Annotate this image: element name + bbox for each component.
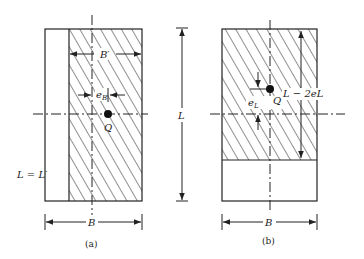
load-point-label-b: Q [273,95,281,106]
l-label: L [177,110,185,121]
panel-a: Q B′ eB L = L′ B (a) [16,15,148,249]
caption-a: (a) [85,239,97,249]
l-minus-2el-label: L − 2eL [282,88,324,99]
b-label-a: B [87,217,95,228]
l-equals-l-prime-label: L = L′ [16,169,48,180]
b-prime-label: B′ [99,49,110,60]
load-point-label-a: Q [104,122,112,133]
caption-b: (b) [262,236,275,246]
foundation-eccentricity-diagram: Q B′ eB L = L′ B (a) L [0,0,364,259]
b-label-b: B [264,217,272,228]
length-dimension: L [176,28,188,201]
load-point-q-a [104,110,112,118]
panel-b: eL Q L − 2eL B (b) [210,20,345,246]
load-point-q-b [266,85,274,93]
